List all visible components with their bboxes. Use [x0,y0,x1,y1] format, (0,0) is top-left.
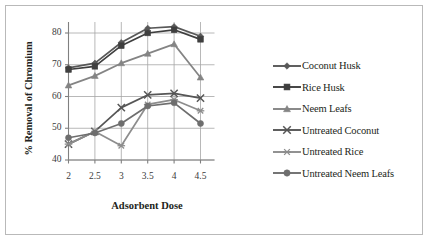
series-untreated-coconut [65,90,204,148]
legend-item-label: Coconut Husk [302,60,361,71]
legend-item-label: Rice Husk [302,82,345,93]
gridlines [69,22,215,160]
circle-marker-icon [272,165,302,181]
diamond-marker-icon [272,58,302,74]
legend-item-label: Untreated Coconut [302,125,379,136]
data-series-layer [65,24,205,149]
x-tick-label: 4.5 [188,171,214,181]
x-tick-label: 4 [161,171,187,181]
legend-item[interactable]: Rice Husk [272,77,430,99]
legend-item[interactable]: Untreated Coconut [272,120,430,142]
y-tick-label: 70 [40,59,62,69]
x-tick-label: 3 [108,171,134,181]
y-tick-label: 80 [40,27,62,37]
series-untreated-rice [65,97,205,149]
axis-lines [65,22,215,164]
legend-item[interactable]: Untreated Rice [272,141,430,163]
legend-item[interactable]: Coconut Husk [272,55,430,77]
x-tick-label: 3.5 [135,171,161,181]
legend-item-label: Untreated Neem Leafs [302,168,394,179]
square-marker-icon [272,79,302,95]
chart-figure: % Removal of Chromium Adsorbent Dose 807… [0,0,434,248]
y-axis-title: % Removal of Chromium [23,24,34,174]
x-axis-title: Adsorbent Dose [52,200,242,211]
legend-item-label: Untreated Rice [302,146,363,157]
legend-item[interactable]: Neem Leafs [272,98,430,120]
x-tick-label: 2.5 [82,171,108,181]
y-tick-label: 50 [40,122,62,132]
y-tick-label: 60 [40,91,62,101]
y-tick-label: 40 [40,154,62,164]
series-coconut-husk [65,24,203,71]
legend-item[interactable]: Untreated Neem Leafs [272,163,430,185]
x-marker-icon [272,122,302,138]
chart-legend: Coconut HuskRice HuskNeem LeafsUntreated… [272,55,430,184]
series-untreated-neem-leafs [66,100,204,141]
legend-item-label: Neem Leafs [302,103,352,114]
triangle-marker-icon [272,101,302,117]
x-tick-label: 2 [56,171,82,181]
asterisk-marker-icon [272,144,302,160]
